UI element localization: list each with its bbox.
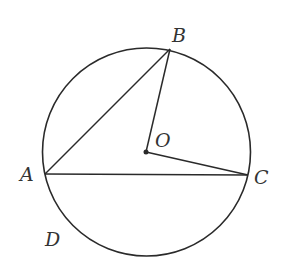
geometry-diagram: B O A C D: [0, 0, 288, 274]
label-c: C: [254, 166, 269, 188]
label-d: D: [44, 228, 60, 250]
segment-ac: [45, 174, 248, 175]
segment-ab: [45, 49, 170, 174]
label-o: O: [155, 129, 171, 151]
label-a: A: [18, 163, 34, 185]
center-point-o: [144, 150, 149, 155]
label-b: B: [171, 24, 186, 46]
segment-oc: [146, 152, 248, 175]
